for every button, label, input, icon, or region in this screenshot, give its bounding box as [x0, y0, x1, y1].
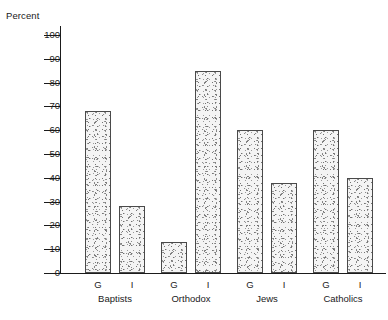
bar [271, 183, 297, 273]
figure-caption [58, 312, 388, 320]
bar-label: I [271, 279, 297, 290]
y-tick-label: 10 [18, 244, 60, 254]
bar [161, 242, 187, 273]
bar-label: I [119, 279, 145, 290]
bar-label: I [195, 279, 221, 290]
y-tick-label: 90 [18, 54, 60, 64]
group-label-jews: Jews [227, 293, 307, 304]
group-label-orthodox: Orthodox [151, 293, 231, 304]
x-axis-line [60, 273, 386, 274]
bar-label: G [161, 279, 187, 290]
bar-label: I [347, 279, 373, 290]
bar-label: G [237, 279, 263, 290]
bar-chart: Percent 0102030405060708090100 GIGIGIGI … [0, 0, 388, 320]
y-tick-label: 100 [18, 30, 60, 40]
bar [85, 111, 111, 273]
bar-label: G [313, 279, 339, 290]
bar [347, 178, 373, 273]
y-axis-title: Percent [6, 10, 39, 21]
y-tick-label: 20 [18, 220, 60, 230]
bar [313, 130, 339, 273]
bar [195, 71, 221, 273]
y-tick-label: 40 [18, 173, 60, 183]
group-label-catholics: Catholics [303, 293, 383, 304]
group-label-baptists: Baptists [75, 293, 155, 304]
bar [237, 130, 263, 273]
bar-label: G [85, 279, 111, 290]
bar [119, 206, 145, 273]
y-tick-label: 50 [18, 149, 60, 159]
y-tick-label: 0 [18, 268, 60, 278]
y-tick-label: 70 [18, 101, 60, 111]
y-tick-label: 60 [18, 125, 60, 135]
y-axis-line [60, 26, 61, 274]
y-tick-label: 30 [18, 197, 60, 207]
y-tick-label: 80 [18, 78, 60, 88]
